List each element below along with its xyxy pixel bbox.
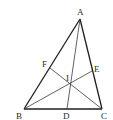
side-ab bbox=[24, 19, 80, 109]
vertex-label-a: A bbox=[77, 7, 84, 17]
point-label-f: F bbox=[42, 59, 47, 69]
cevian-be bbox=[24, 71, 92, 109]
point-label-d: D bbox=[63, 111, 70, 120]
point-label-e: E bbox=[94, 64, 100, 74]
vertex-label-c: C bbox=[101, 111, 107, 120]
cevian-ad bbox=[67, 19, 80, 109]
triangle-diagram: A B C D E F I bbox=[0, 0, 113, 120]
cevian-cf bbox=[50, 68, 102, 109]
vertex-label-b: B bbox=[16, 111, 22, 120]
point-label-i: I bbox=[66, 73, 69, 83]
